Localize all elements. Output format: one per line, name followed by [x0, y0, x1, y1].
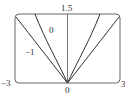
curve-0-label: 0 — [49, 26, 54, 35]
curve-neg1-label: −1 — [25, 48, 35, 57]
x-origin-label: 0 — [65, 86, 70, 95]
x-max-label: 3 — [121, 80, 125, 89]
x-min-label: −3 — [1, 79, 11, 88]
y-max-label: 1.5 — [61, 4, 72, 13]
plot-area — [0, 0, 125, 96]
